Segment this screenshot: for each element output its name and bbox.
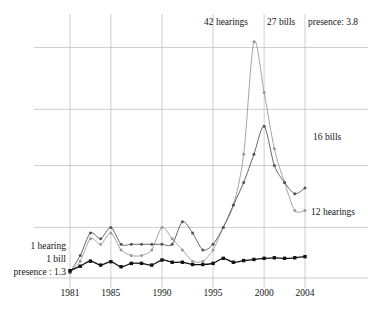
data-point-bills [242, 181, 245, 184]
data-point-bills [150, 243, 153, 246]
data-point-bills [171, 243, 174, 246]
data-point-hearings [120, 248, 123, 251]
x-tick-1990: 1990 [152, 288, 171, 298]
data-point-bills [191, 232, 194, 235]
data-point-presence [89, 259, 92, 262]
data-point-hearings [171, 237, 174, 240]
data-point-presence [201, 263, 204, 266]
data-point-hearings [79, 260, 82, 263]
x-tick-2004: 2004 [296, 288, 315, 298]
data-point-presence [181, 261, 184, 264]
data-point-hearings [252, 40, 255, 43]
data-point-hearings [109, 232, 112, 235]
annotation-end-presence: presence: 3.8 [308, 17, 358, 28]
data-point-bills [293, 192, 296, 195]
data-point-bills [79, 254, 82, 257]
annotation-start-presence: presence : 1.3 [0, 267, 66, 278]
annotation-peak-hearings: 42 hearings [204, 17, 248, 28]
annotation-end-hearings: 12 hearings [311, 207, 355, 218]
data-point-presence [79, 264, 82, 267]
data-point-hearings [293, 209, 296, 212]
data-point-presence [222, 257, 225, 260]
data-point-presence [191, 263, 194, 266]
series-presence [68, 255, 306, 272]
data-point-presence [68, 269, 71, 272]
series-bills [69, 125, 307, 274]
data-point-presence [99, 263, 102, 266]
data-point-hearings [181, 248, 184, 251]
data-point-hearings [263, 91, 266, 94]
data-point-presence [283, 257, 286, 260]
data-point-hearings [191, 260, 194, 263]
data-point-presence [119, 265, 122, 268]
data-point-hearings [160, 226, 163, 229]
data-point-bills [222, 226, 225, 229]
x-tick-1981: 1981 [61, 288, 80, 298]
data-point-hearings [140, 254, 143, 257]
data-point-presence [130, 262, 133, 265]
annotation-peak-bills: 27 bills [267, 17, 295, 28]
data-point-bills [160, 243, 163, 246]
data-point-bills [99, 237, 102, 240]
data-point-bills [232, 203, 235, 206]
series-line-hearings [70, 41, 305, 273]
data-point-bills [181, 220, 184, 223]
data-point-hearings [89, 237, 92, 240]
data-point-presence [232, 261, 235, 264]
data-point-presence [262, 257, 265, 260]
data-point-bills [252, 153, 255, 156]
data-point-hearings [212, 248, 215, 251]
data-point-hearings [150, 248, 153, 251]
data-point-bills [89, 232, 92, 235]
data-point-presence [242, 259, 245, 262]
data-point-presence [293, 256, 296, 259]
data-point-bills [273, 164, 276, 167]
data-point-hearings [273, 147, 276, 150]
annotation-start-bills: 1 bill [0, 254, 66, 265]
x-tick-1995: 1995 [204, 288, 223, 298]
series-line-presence [70, 257, 305, 271]
data-point-bills [212, 243, 215, 246]
data-point-presence [303, 255, 306, 258]
data-point-hearings [99, 243, 102, 246]
data-point-bills [201, 248, 204, 251]
x-tick-2000: 2000 [255, 288, 274, 298]
data-point-bills [130, 243, 133, 246]
data-point-bills [109, 226, 112, 229]
series-hearings [69, 40, 307, 274]
x-tick-1985: 1985 [101, 288, 120, 298]
data-point-presence [140, 262, 143, 265]
series-layer [68, 40, 306, 274]
data-point-presence [252, 258, 255, 261]
data-point-presence [109, 260, 112, 263]
data-point-hearings [201, 260, 204, 263]
data-point-bills [304, 187, 307, 190]
annotation-start-hearings: 1 hearing [0, 241, 66, 252]
data-point-hearings [242, 153, 245, 156]
data-point-presence [160, 258, 163, 261]
data-point-bills [140, 243, 143, 246]
data-point-hearings [130, 254, 133, 257]
data-point-presence [211, 262, 214, 265]
series-line-bills [70, 126, 305, 272]
data-point-bills [263, 125, 266, 128]
data-point-presence [273, 256, 276, 259]
annotation-end-bills: 16 bills [313, 132, 341, 143]
data-point-presence [170, 261, 173, 264]
line-chart: 42 hearings 27 bills presence: 3.8 16 bi… [0, 0, 368, 314]
data-point-bills [283, 181, 286, 184]
data-point-presence [150, 263, 153, 266]
data-point-hearings [304, 209, 307, 212]
data-point-bills [120, 243, 123, 246]
